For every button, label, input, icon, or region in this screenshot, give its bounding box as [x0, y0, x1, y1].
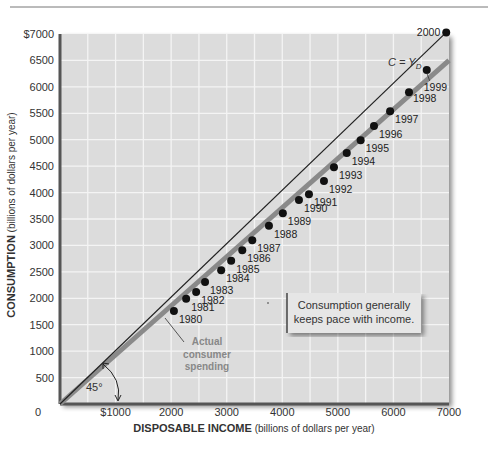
trend-label-line: Actual [192, 336, 223, 347]
data-point-1982 [192, 288, 200, 296]
consumption-income-chart: 0$1000200030004000500060007000 500100015… [0, 0, 491, 453]
point-label: 1997 [395, 113, 419, 125]
data-point-1995 [357, 136, 365, 144]
y-tick-label: $7000 [23, 28, 54, 40]
x-axis-ticks: 0$1000200030004000500060007000 [35, 406, 461, 418]
x-tick-label: 4000 [270, 406, 294, 418]
data-point-1993 [330, 163, 338, 171]
data-point-1989 [279, 209, 287, 217]
point-label: 1983 [210, 284, 234, 296]
data-point-1988 [265, 222, 273, 230]
data-point-1991 [305, 190, 313, 198]
data-point-1998 [405, 88, 413, 96]
point-label: 1989 [288, 215, 312, 227]
data-point-1992 [320, 177, 328, 185]
point-label: 1993 [339, 169, 363, 181]
x-tick-label: 0 [35, 406, 41, 418]
point-label: 1996 [379, 128, 403, 140]
y-tick-label: 5000 [30, 134, 54, 146]
x-tick-label: 2000 [159, 406, 183, 418]
point-label: 2000 [417, 26, 441, 38]
data-point-1987 [248, 236, 256, 244]
y-axis-title-rest: (billions of dollars per year) [6, 112, 17, 235]
data-point-1997 [386, 107, 394, 115]
stray-dot [267, 302, 269, 304]
y-tick-label: 6000 [30, 81, 54, 93]
point-label: 1991 [314, 196, 338, 208]
trend-label-line: spending [185, 361, 229, 372]
y-tick-label: 1000 [30, 345, 54, 357]
data-point-1985 [227, 257, 235, 265]
data-point-1984 [217, 266, 225, 274]
x-tick-label: $1000 [100, 406, 131, 418]
data-point-1983 [201, 278, 209, 286]
y-axis-ticks: 5001000150020002500300035004000450050005… [23, 28, 54, 384]
data-point-2000 [442, 28, 450, 36]
point-label: 1995 [366, 142, 390, 154]
x-tick-label: 5000 [326, 406, 350, 418]
y-tick-label: 2500 [30, 266, 54, 278]
y-tick-label: 5500 [30, 107, 54, 119]
point-label: 1998 [413, 92, 437, 104]
y-tick-label: 4000 [30, 187, 54, 199]
point-label: 1994 [352, 155, 376, 167]
c-equals-y-text: C = Y [388, 56, 416, 68]
data-point-1986 [238, 246, 246, 254]
c-equals-y-subscript: D [416, 62, 422, 71]
data-point-1980 [170, 307, 178, 315]
x-tick-label: 3000 [214, 406, 238, 418]
point-label: 1980 [179, 313, 203, 325]
y-tick-label: 1500 [30, 319, 54, 331]
data-point-1999 [423, 66, 431, 74]
y-axis-title-bold: CONSUMPTION [5, 235, 17, 318]
y-tick-label: 500 [36, 372, 54, 384]
data-point-1981 [182, 295, 190, 303]
point-label: 1999 [424, 81, 448, 93]
point-label: 1985 [236, 263, 260, 275]
point-label: 1987 [257, 242, 281, 254]
x-axis-title-rest: (billions of dollars per year) [252, 423, 375, 434]
y-axis-title: CONSUMPTION (billions of dollars per yea… [5, 112, 17, 317]
callout-text-line: Consumption generally [298, 299, 411, 311]
point-label: 1992 [329, 183, 353, 195]
y-tick-label: 4500 [30, 160, 54, 172]
x-axis-title: DISPOSABLE INCOME (billions of dollars p… [133, 422, 374, 434]
x-tick-label: 6000 [381, 406, 405, 418]
angle-label: 45° [86, 381, 103, 393]
y-tick-label: 6500 [30, 54, 54, 66]
data-point-1996 [370, 122, 378, 130]
x-axis-title-bold: DISPOSABLE INCOME [133, 422, 252, 434]
y-tick-label: 3500 [30, 213, 54, 225]
x-tick-label: 7000 [437, 406, 461, 418]
y-tick-label: 2000 [30, 292, 54, 304]
trend-label-line: consumer [183, 349, 231, 360]
data-point-1990 [295, 196, 303, 204]
data-point-1994 [343, 149, 351, 157]
callout-text-line: keeps pace with income. [294, 313, 414, 325]
y-tick-label: 3000 [30, 239, 54, 251]
point-label: 1988 [274, 228, 298, 240]
